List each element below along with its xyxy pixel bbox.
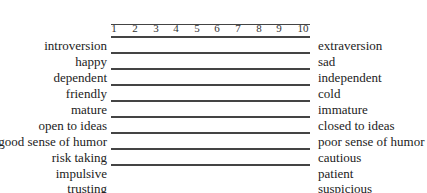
trait-right-label: immature xyxy=(318,102,368,118)
rating-line[interactable] xyxy=(111,132,310,134)
rating-line[interactable] xyxy=(111,68,310,70)
scale-tick-8: 8 xyxy=(256,23,262,34)
trait-left-label: happy xyxy=(75,54,107,70)
rating-line[interactable] xyxy=(111,116,310,118)
rating-scale: 1 2 3 4 5 6 7 8 9 10 xyxy=(111,22,310,34)
trait-left-label: good sense of humor xyxy=(0,134,107,150)
trait-right-label: sad xyxy=(318,54,335,70)
scale-tick-3: 3 xyxy=(153,23,159,34)
rating-line[interactable] xyxy=(111,84,310,86)
scale-tick-9: 9 xyxy=(276,23,282,34)
trait-left-label: risk taking xyxy=(52,150,107,166)
rating-line[interactable] xyxy=(111,100,310,102)
trait-row-impulsive: impulsive patient xyxy=(0,166,427,182)
trait-left-label: friendly xyxy=(66,86,107,102)
scale-tick-4: 4 xyxy=(173,23,179,34)
scale-tick-1: 1 xyxy=(111,23,117,34)
rating-line[interactable] xyxy=(111,148,310,150)
trait-right-label: suspicious xyxy=(318,181,372,193)
trait-right-label: cold xyxy=(318,86,340,102)
trait-left-label: open to ideas xyxy=(38,118,107,134)
trait-right-label: poor sense of humor xyxy=(318,134,425,150)
rating-line[interactable] xyxy=(111,36,310,38)
trait-right-label: independent xyxy=(318,70,382,86)
rating-line[interactable] xyxy=(111,52,310,54)
trait-left-label: impulsive xyxy=(56,166,107,182)
trait-left-label: introversion xyxy=(44,38,107,54)
cropped-header-text xyxy=(40,0,240,3)
scale-tick-7: 7 xyxy=(235,23,241,34)
trait-left-label: dependent xyxy=(54,70,107,86)
rating-line[interactable] xyxy=(111,164,310,166)
trait-right-label: cautious xyxy=(318,150,361,166)
trait-row-trusting: trusting suspicious xyxy=(0,181,427,193)
trait-right-label: extraversion xyxy=(318,38,382,54)
scale-tick-10: 10 xyxy=(298,23,309,34)
trait-right-label: closed to ideas xyxy=(318,118,395,134)
scale-tick-2: 2 xyxy=(132,23,138,34)
trait-left-label: mature xyxy=(71,102,107,118)
scale-tick-5: 5 xyxy=(194,23,200,34)
trait-left-label: trusting xyxy=(67,181,107,193)
trait-right-label: patient xyxy=(318,166,353,182)
scale-tick-6: 6 xyxy=(214,23,220,34)
